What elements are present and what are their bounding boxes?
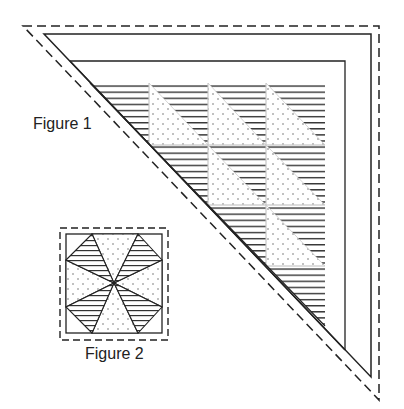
quilt-diagram: Figure 1 Figure 2 (0, 0, 404, 409)
figure-1-label: Figure 1 (33, 115, 92, 133)
figure-1-triangle-quilt (23, 26, 379, 400)
figure-2-block (60, 228, 168, 340)
quilt-illustration (0, 0, 404, 409)
figure-2-label: Figure 2 (85, 345, 144, 363)
